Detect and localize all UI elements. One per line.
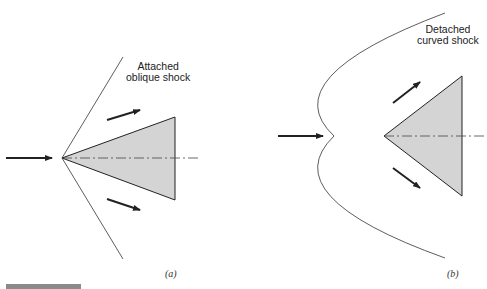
label-line: oblique shock [126,72,190,83]
flow-arrow-upper-b [393,82,420,103]
caption-a: (a) [165,268,177,279]
flow-arrow-lower-b [393,168,420,188]
caption-b: (b) [447,268,459,279]
flow-arrow-lower-a [107,199,140,210]
label-line: curved shock [417,35,479,46]
panel-a [6,57,200,259]
label-detached-curved-shock: Detached curved shock [417,24,479,46]
gray-bar [6,284,81,289]
shock-diagram [0,0,487,289]
flow-arrow-upper-a [107,110,140,120]
label-attached-oblique-shock: Attached oblique shock [126,61,190,83]
panel-b [278,13,487,258]
